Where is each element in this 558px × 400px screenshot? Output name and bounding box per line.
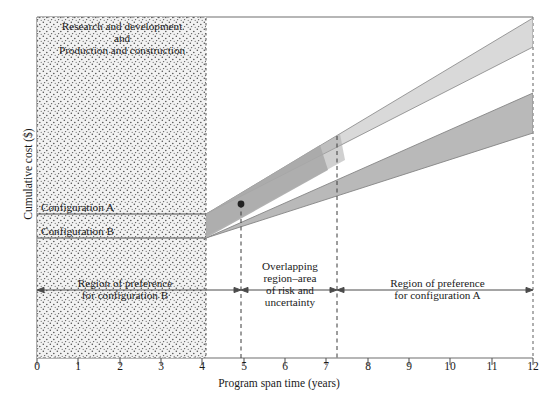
overlap-line4: uncertainty (250, 296, 330, 308)
breakeven-point-marker (238, 201, 245, 208)
x-axis-title: Program span time (years) (0, 377, 558, 389)
x-tick-label-11: 11 (477, 360, 507, 372)
rd-production-hatched-region (37, 17, 206, 358)
x-tick-label-1: 1 (63, 360, 93, 372)
rd-label-line1: Research and development (46, 20, 198, 32)
x-tick-label-3: 3 (146, 360, 176, 372)
overlap-line1: Overlapping (250, 260, 330, 272)
x-tick-label-5: 5 (229, 360, 259, 372)
rd-production-label: Research and development and Production … (46, 20, 198, 56)
rd-label-line2: and (46, 32, 198, 44)
x-tick-label-0: 0 (22, 360, 52, 372)
region-b-line1: Region of preference (60, 277, 190, 289)
overlap-line3: of risk and (250, 284, 330, 296)
x-tick-label-12: 12 (518, 360, 548, 372)
configuration-b-band (206, 93, 533, 238)
x-tick-label-7: 7 (311, 360, 341, 372)
region-a-line1: Region of preference (370, 277, 505, 289)
overlapping-region-label: Overlapping region–area of risk and unce… (250, 260, 330, 308)
configuration-a-label: Configuration A (41, 201, 114, 213)
region-a-line2: for configuration A (370, 289, 505, 301)
rd-label-line3: Production and construction (46, 44, 198, 56)
x-tick-label-8: 8 (353, 360, 383, 372)
x-tick-label-6: 6 (270, 360, 300, 372)
chart-figure: Cumulative cost ($) Program span time (y… (0, 0, 558, 400)
chart-canvas (0, 0, 558, 400)
region-preference-a-label: Region of preference for configuration A (370, 277, 505, 301)
x-tick-label-10: 10 (435, 360, 465, 372)
configuration-b-label: Configuration B (41, 225, 114, 237)
region-b-line2: for configuration B (60, 289, 190, 301)
x-tick-label-2: 2 (105, 360, 135, 372)
y-axis-title: Cumulative cost ($) (22, 94, 34, 254)
overlap-line2: region–area (250, 272, 330, 284)
x-tick-label-4: 4 (187, 360, 217, 372)
region-preference-b-label: Region of preference for configuration B (60, 277, 190, 301)
x-tick-label-9: 9 (394, 360, 424, 372)
